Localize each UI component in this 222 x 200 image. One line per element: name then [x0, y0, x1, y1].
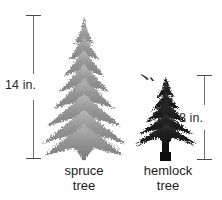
- measurement-stem-lower: [33, 100, 34, 158]
- caption-line-1: hemlock: [131, 163, 205, 178]
- measurement-label-spruce-height: 14 in.: [5, 78, 36, 92]
- hemlock-tree-caption: hemlock tree: [131, 163, 205, 193]
- spruce-tree-illustration: [38, 14, 130, 162]
- measurement-cap-bottom: [197, 159, 212, 160]
- measurement-stem-upper: [204, 76, 205, 105]
- caption-line-2: tree: [38, 178, 130, 193]
- caption-line-2: tree: [131, 178, 205, 193]
- measurement-stem-lower: [204, 130, 205, 159]
- measurement-label-hemlock-height: 8 in.: [179, 111, 203, 125]
- spruce-tree-caption: spruce tree: [38, 163, 130, 193]
- tree-height-comparison-figure: 14 in.: [0, 0, 222, 200]
- caption-line-1: spruce: [38, 163, 130, 178]
- measurement-stem-upper: [33, 16, 34, 74]
